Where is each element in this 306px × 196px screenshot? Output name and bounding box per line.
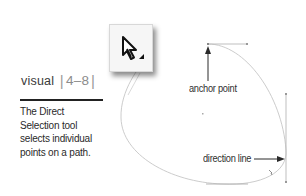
direct-selection-arrow-icon bbox=[110, 25, 152, 71]
anchor-point-marker bbox=[207, 43, 209, 45]
right-handle-top bbox=[285, 93, 287, 95]
right-handle-bottom bbox=[285, 181, 287, 183]
caption-line: points on a path. bbox=[20, 146, 108, 160]
anchor-arrow-head bbox=[205, 46, 211, 54]
caption-line: selects individual bbox=[20, 132, 108, 146]
section-header: visual |4–8| bbox=[21, 71, 97, 88]
separator-right: | bbox=[91, 72, 95, 89]
section-number: 4–8 bbox=[66, 73, 89, 88]
direction-arrow-head bbox=[277, 156, 285, 162]
anchor-point-label: anchor point bbox=[189, 82, 237, 94]
small-cursor-icon bbox=[269, 170, 272, 175]
path-diagram bbox=[0, 0, 306, 196]
caption-line: Selection tool bbox=[20, 119, 108, 133]
top-handle-point bbox=[246, 43, 248, 45]
center-point bbox=[202, 113, 204, 115]
caption-line: The Direct bbox=[20, 105, 108, 119]
direction-line-label: direction line bbox=[203, 152, 251, 164]
figure-caption: The Direct Selection tool selects indivi… bbox=[20, 105, 108, 159]
caption-rule bbox=[20, 99, 103, 101]
direct-selection-tool-box bbox=[109, 24, 153, 72]
submenu-triangle-icon bbox=[139, 54, 144, 59]
toolbox-connector bbox=[128, 73, 140, 95]
section-word: visual bbox=[21, 74, 54, 88]
separator-left: | bbox=[60, 72, 64, 89]
